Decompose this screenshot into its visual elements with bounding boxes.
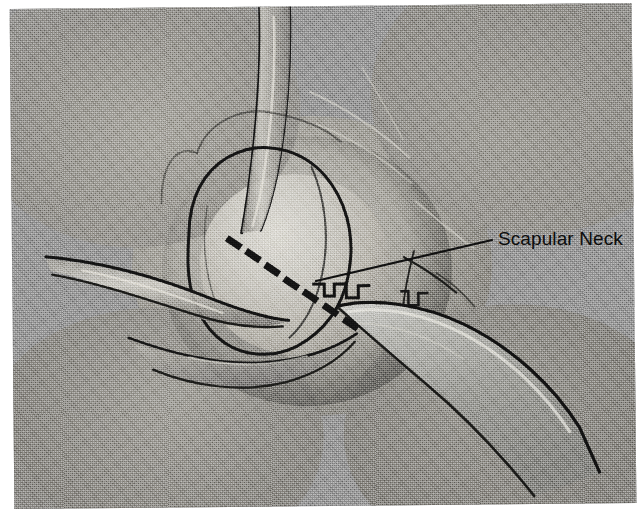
figure-canvas: Scapular Neck (0, 0, 644, 523)
leader-line-scapular-neck (316, 240, 492, 281)
label-scapular-neck: Scapular Neck (498, 228, 623, 250)
annotation-layer (0, 0, 644, 523)
